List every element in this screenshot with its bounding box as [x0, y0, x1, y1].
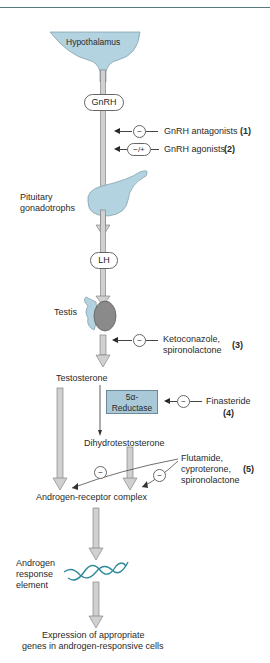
- inhibit-line-3a: [116, 340, 132, 341]
- minus-icon: −: [153, 469, 166, 482]
- hypothalamus-label: Hypothalamus: [66, 37, 120, 48]
- inhibit-line-1b: [146, 131, 158, 132]
- are-label-2: response: [16, 569, 53, 580]
- dht-label: Dihydrotestosterone: [84, 438, 165, 449]
- are-label-3: element: [16, 580, 48, 591]
- drug-gnrh-agonists: GnRH agonists: [164, 144, 225, 155]
- drug-num-3: (3): [232, 340, 243, 351]
- drug-spironolactone-2: spironolactone: [181, 475, 240, 486]
- pituitary-shape: [88, 171, 147, 216]
- testis-label: Testis: [54, 307, 77, 318]
- gnrh-pill: GnRH: [84, 94, 124, 111]
- drug-finasteride: Finasteride: [206, 396, 251, 407]
- minus-icon: −: [177, 395, 190, 408]
- drug-num-5: (5): [243, 464, 254, 475]
- are-label-1: Androgen: [16, 558, 55, 569]
- inhibit-line-4a: [168, 401, 177, 402]
- testis-shape: [94, 301, 116, 331]
- drug-ketoconazole: Ketoconazole,: [163, 334, 220, 345]
- drug-gnrh-antagonists: GnRH antagonists: [164, 126, 238, 137]
- minus-icon: −: [133, 334, 146, 347]
- expression-label-1: Expression of appropriate: [42, 630, 145, 641]
- minus-icon: −: [94, 466, 107, 479]
- arc-label: Androgen-receptor complex: [36, 492, 147, 503]
- reductase-line-2: Reductase: [107, 403, 157, 414]
- drug-num-1: (1): [240, 126, 251, 137]
- drug-flutamide: Flutamide,: [181, 453, 223, 464]
- reductase-line-1: 5α-: [107, 392, 157, 403]
- drug-spironolactone: spironolactone: [163, 345, 222, 356]
- 5a-reductase-box: 5α- Reductase: [106, 390, 158, 414]
- pituitary-label-2: gonadotrophs: [20, 203, 75, 214]
- drug-num-2: (2): [224, 144, 235, 155]
- inhibit-line-4b: [190, 401, 202, 402]
- inhibit-line-1a: [118, 131, 132, 132]
- pituitary-label-1: Pituitary: [20, 192, 53, 203]
- testosterone-label: Testosterone: [56, 373, 108, 384]
- inhibit-line-2b: [151, 149, 159, 150]
- drug-num-4: (4): [223, 408, 234, 419]
- lh-pill: LH: [90, 252, 118, 269]
- minus-icon: −: [133, 125, 146, 138]
- drug-cyproterone: cyproterone,: [181, 464, 231, 475]
- inhibit-line-3b: [146, 340, 158, 341]
- expression-label-2: genes in androgen-responsive cells: [22, 641, 164, 652]
- minus-plus-icon: −/+: [127, 143, 151, 156]
